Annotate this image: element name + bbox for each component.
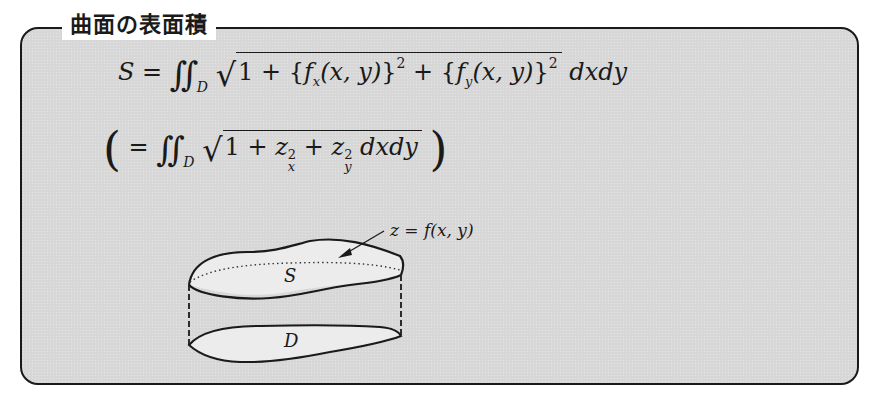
surface-figure <box>0 0 869 396</box>
s-label: S <box>284 265 296 286</box>
d-label: D <box>284 330 298 351</box>
surface-equation-label: z = f(x, y) <box>390 220 474 240</box>
